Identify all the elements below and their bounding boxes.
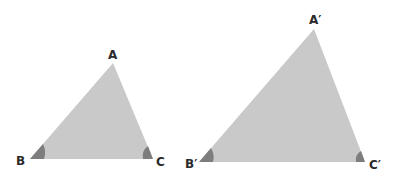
label-b-prime: B′ xyxy=(185,157,197,171)
triangle-a-prime-b-prime-c-prime: A′ B′ C′ xyxy=(185,13,381,172)
triangle-abc: A B C xyxy=(16,48,165,169)
triangle-a-prime-shape xyxy=(199,29,365,162)
angle-mark-b-prime xyxy=(199,148,214,162)
label-a-prime: A′ xyxy=(309,13,321,27)
label-c-prime: C′ xyxy=(369,158,381,172)
label-a: A xyxy=(108,48,118,62)
similar-triangles-diagram: A B C A′ B′ C′ xyxy=(0,0,403,179)
label-b: B xyxy=(16,154,25,168)
triangle-abc-shape xyxy=(30,63,153,159)
angle-mark-b xyxy=(30,144,45,159)
label-c: C xyxy=(156,155,165,169)
